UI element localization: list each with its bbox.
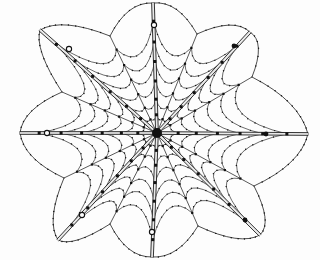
ring-4-droplet	[159, 74, 160, 75]
junction-SE	[243, 218, 248, 223]
ring-1-droplet	[143, 130, 144, 131]
ring-7-droplet	[23, 121, 24, 122]
radius-node-marker	[181, 146, 183, 148]
ring-7-droplet	[191, 25, 192, 26]
ring-7-droplet	[206, 229, 207, 230]
ring-7-droplet	[77, 239, 78, 240]
ring-7-droplet	[262, 204, 263, 205]
ring-7-droplet	[281, 95, 282, 96]
ring-4-droplet	[129, 177, 130, 178]
radius-node-marker	[285, 132, 288, 135]
ring-7-droplet	[181, 13, 182, 14]
ring-6-droplet	[245, 149, 246, 150]
ring-7-droplet	[84, 237, 85, 238]
ring-3-droplet	[120, 123, 121, 124]
ring-6-droplet	[115, 204, 116, 205]
ring-7-droplet	[123, 14, 124, 15]
ring-4-droplet	[185, 176, 186, 177]
ring-7-droplet	[164, 3, 165, 4]
ring-7-droplet	[40, 164, 41, 165]
ring-3-droplet	[115, 128, 116, 129]
ring-7-droplet	[192, 233, 193, 234]
ring-7-droplet	[134, 6, 135, 7]
ring-7-droplet	[41, 51, 42, 52]
ring-4-droplet	[110, 103, 111, 104]
ring-7-droplet	[52, 218, 53, 219]
ring-7-droplet	[265, 219, 266, 220]
ring-6-droplet	[65, 125, 66, 126]
radius-node-marker	[153, 200, 156, 203]
ring-7-droplet	[303, 122, 304, 123]
ring-4-droplet	[150, 188, 151, 189]
ring-4-droplet	[186, 88, 187, 89]
ring-4-droplet	[124, 176, 125, 177]
junction-E	[264, 132, 269, 137]
ring-3-droplet	[180, 164, 181, 165]
ring-6-droplet	[109, 200, 110, 201]
ring-6-droplet	[241, 113, 242, 114]
ring-5-droplet	[220, 100, 221, 101]
ring-4-droplet	[192, 177, 193, 178]
ring-6-droplet	[123, 54, 124, 55]
ring-3-droplet	[159, 92, 160, 93]
spider-web-canvas	[0, 0, 320, 260]
ring-2-droplet	[151, 155, 152, 156]
ring-7-droplet	[296, 111, 297, 112]
ring-6-droplet	[84, 88, 85, 89]
ring-5-droplet	[139, 191, 140, 192]
ring-6-droplet	[200, 200, 201, 201]
radius-node-marker	[74, 97, 76, 99]
ring-3-droplet	[150, 170, 151, 171]
ring-4-droplet	[93, 136, 94, 137]
ring-4-droplet	[107, 96, 108, 97]
ring-3-droplet	[189, 155, 190, 156]
ring-2-droplet	[131, 128, 132, 129]
ring-5-droplet	[237, 140, 238, 141]
ring-4-droplet	[195, 85, 196, 86]
radius-node-marker	[109, 90, 112, 93]
ring-6-droplet	[53, 129, 54, 130]
ring-6-droplet	[178, 205, 179, 206]
ring-4-droplet	[164, 81, 165, 82]
ring-6-droplet	[90, 185, 91, 186]
ring-1-droplet	[171, 135, 172, 136]
ring-5-droplet	[214, 180, 215, 181]
ring-7-droplet	[146, 2, 147, 3]
ring-2-droplet	[136, 149, 137, 150]
ring-5-droplet	[92, 145, 93, 146]
ring-6-droplet	[80, 153, 81, 154]
ring-4-droplet	[207, 114, 208, 115]
ring-2-droplet	[178, 149, 179, 150]
ring-5-droplet	[113, 76, 114, 77]
ring-7-droplet	[35, 159, 36, 160]
ring-1-droplet	[158, 119, 159, 120]
ring-6-droplet	[79, 104, 80, 105]
ring-5-droplet	[190, 76, 191, 77]
ring-7-droplet	[237, 238, 238, 239]
ring-6-droplet	[78, 116, 79, 117]
ring-6-droplet	[130, 204, 131, 205]
ring-3-droplet	[165, 167, 166, 168]
ring-5-droplet	[198, 75, 199, 76]
radius-node-marker	[130, 79, 132, 81]
ring-7-droplet	[276, 173, 277, 174]
ring-7-droplet	[71, 241, 72, 242]
ring-6-droplet	[123, 206, 124, 207]
radius-node-marker	[144, 107, 146, 109]
ring-5-droplet	[161, 199, 162, 200]
radius-node-marker	[222, 93, 224, 95]
radius-node-marker	[119, 150, 121, 152]
ring-6-droplet	[193, 206, 194, 207]
radius-node-marker	[190, 47, 192, 49]
ring-4-droplet	[198, 97, 199, 98]
radius-node-marker	[162, 118, 164, 120]
ring-7-droplet	[234, 25, 235, 26]
ring-7-droplet	[170, 5, 171, 6]
ring-3-droplet	[125, 157, 126, 158]
ring-3-droplet	[145, 166, 146, 167]
ring-6-droplet	[80, 164, 81, 165]
ring-7-droplet	[306, 139, 307, 140]
radius-node-marker	[195, 153, 197, 155]
ring-4-droplet	[212, 144, 213, 145]
radius-node-marker	[144, 156, 146, 158]
